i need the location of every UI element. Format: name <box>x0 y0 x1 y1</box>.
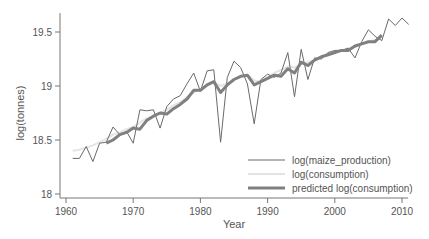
y-tick-label: 18.5 <box>33 135 53 146</box>
y-axis-title: log(tonnes) <box>14 85 26 140</box>
x-tick-label: 2010 <box>391 206 414 217</box>
x-tick-label: 1980 <box>189 206 212 217</box>
legend: log(maize_production) log(consumption) p… <box>248 155 413 194</box>
y-tick-label: 19 <box>41 81 53 92</box>
series-predicted-consumption <box>106 35 382 143</box>
x-tick-label: 1970 <box>122 206 145 217</box>
x-tick-label: 1990 <box>256 206 279 217</box>
legend-label-maize-production: log(maize_production) <box>292 155 391 166</box>
x-tick-label: 1960 <box>55 206 78 217</box>
series-maize-production <box>73 18 409 162</box>
plot-series <box>73 18 409 162</box>
x-tick-label: 2000 <box>324 206 347 217</box>
legend-label-predicted-consumption: predicted log(consumption) <box>292 183 413 194</box>
y-tick-label: 18 <box>41 189 53 200</box>
y-axis-ticks: 1818.51919.5 <box>33 27 60 200</box>
x-axis-title: Year <box>223 218 246 230</box>
y-tick-label: 19.5 <box>33 27 53 38</box>
legend-label-consumption: log(consumption) <box>292 169 369 180</box>
x-axis-ticks: 196019701980199020002010 <box>55 198 414 217</box>
chart: 1818.51919.5 196019701980199020002010 Ye… <box>0 0 429 239</box>
